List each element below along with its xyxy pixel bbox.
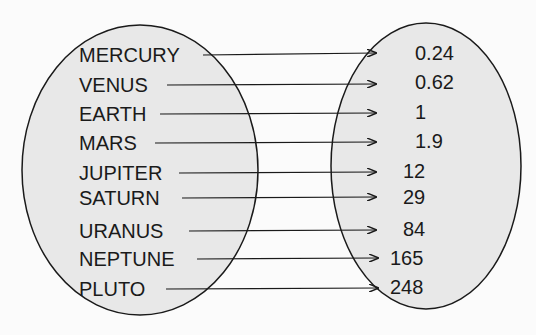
arrow-mercury bbox=[203, 53, 376, 55]
value-label: 1.9 bbox=[415, 130, 443, 152]
planet-label: MARS bbox=[79, 132, 137, 154]
range-ellipse bbox=[331, 23, 521, 309]
value-label: 0.62 bbox=[415, 71, 454, 93]
planet-label: NEPTUNE bbox=[79, 248, 175, 270]
value-label: 29 bbox=[403, 186, 425, 208]
mapping-diagram: MERCURY VENUS EARTH MARS JUPITER SATURN … bbox=[0, 0, 536, 335]
value-label: 12 bbox=[403, 160, 425, 182]
planet-label: URANUS bbox=[79, 220, 163, 242]
value-label: 1 bbox=[415, 101, 426, 123]
value-label: 165 bbox=[390, 247, 423, 269]
planet-label: VENUS bbox=[79, 74, 148, 96]
planet-label: JUPITER bbox=[79, 162, 162, 184]
value-label: 0.24 bbox=[415, 42, 454, 64]
value-label: 248 bbox=[390, 276, 423, 298]
planet-label: PLUTO bbox=[79, 278, 145, 300]
planet-label: EARTH bbox=[79, 103, 146, 125]
planet-label: MERCURY bbox=[79, 44, 180, 66]
value-label: 84 bbox=[403, 218, 425, 240]
planet-label: SATURN bbox=[79, 187, 160, 209]
